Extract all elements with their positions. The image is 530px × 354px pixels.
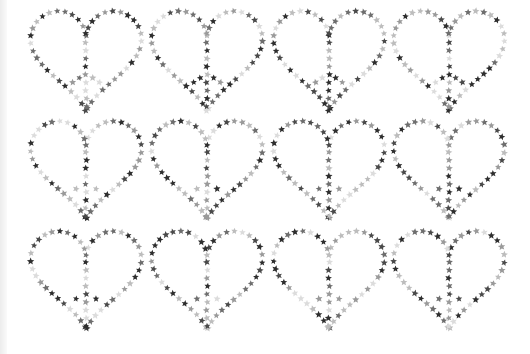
star-icon — [446, 181, 453, 188]
star-icon — [411, 228, 418, 235]
star-icon — [54, 295, 61, 302]
star-icon — [131, 237, 138, 244]
star-icon — [254, 52, 261, 58]
star-icon — [336, 295, 343, 302]
star-icon — [273, 48, 280, 54]
star-icon — [83, 291, 90, 298]
star-icon — [479, 181, 485, 187]
star-icon — [285, 121, 292, 128]
star-icon — [446, 189, 452, 195]
star-icon — [331, 98, 338, 104]
star-icon — [257, 133, 263, 139]
star-icon — [82, 47, 89, 54]
star-icon — [495, 274, 501, 280]
star-icon — [424, 8, 431, 15]
star-icon — [336, 185, 343, 192]
star-icon — [80, 23, 86, 29]
star-icon — [501, 259, 507, 266]
star-icon — [73, 311, 79, 317]
star-icon — [360, 8, 367, 15]
star-icon — [259, 141, 266, 147]
star-icon — [293, 72, 300, 79]
star-icon — [118, 119, 125, 126]
star-icon — [93, 92, 100, 98]
star-icon — [246, 12, 252, 18]
star-icon — [175, 7, 182, 14]
star-icon — [159, 169, 165, 175]
star-icon — [488, 122, 495, 128]
star-icon — [223, 118, 230, 125]
star-icon — [452, 18, 459, 25]
star-icon — [446, 71, 453, 78]
star-icon — [280, 279, 287, 285]
star-icon — [239, 71, 245, 77]
star-icon — [325, 181, 332, 188]
star-icon — [326, 149, 332, 156]
star-icon — [335, 312, 341, 319]
star-icon — [338, 232, 345, 239]
star-icon — [451, 99, 457, 105]
star-icon — [158, 279, 165, 286]
star-icon — [98, 307, 105, 314]
star-icon — [496, 52, 503, 59]
star-icon — [203, 307, 210, 314]
star-icon — [82, 282, 89, 289]
star-icon — [446, 55, 452, 61]
star-icon — [28, 148, 34, 154]
star-icon — [307, 229, 314, 236]
star-icon — [381, 30, 387, 36]
star-icon — [330, 318, 337, 325]
star-icon — [418, 185, 424, 191]
star-icon — [271, 258, 277, 264]
star-icon — [346, 191, 353, 198]
star-icon — [488, 232, 495, 239]
star-icon — [57, 228, 64, 235]
star-icon — [326, 259, 333, 266]
star-icon — [379, 157, 385, 163]
star-icon — [396, 18, 402, 25]
star-icon — [138, 251, 145, 258]
star-icon — [345, 9, 351, 16]
star-icon — [381, 259, 388, 266]
star-icon — [192, 123, 199, 130]
star-icon — [203, 79, 210, 86]
star-icon — [405, 232, 411, 238]
star-icon — [320, 317, 327, 324]
star-icon — [371, 59, 378, 66]
star-icon — [204, 55, 211, 62]
star-icon — [83, 298, 90, 305]
star-icon — [39, 13, 45, 19]
star-icon — [340, 307, 347, 314]
star-icon — [210, 74, 217, 80]
star-icon — [157, 126, 163, 132]
star-icon — [170, 118, 177, 125]
star-icon — [456, 92, 463, 99]
star-icon — [160, 13, 167, 20]
star-icon — [275, 162, 282, 169]
star-icon — [56, 77, 63, 84]
star-icon — [309, 305, 316, 312]
star-icon — [446, 307, 452, 314]
star-icon — [461, 307, 468, 314]
star-icon — [85, 134, 92, 141]
star-icon — [446, 79, 452, 85]
star-icon — [37, 279, 44, 286]
star-icon — [325, 196, 332, 203]
star-icon — [436, 94, 442, 100]
star-icon — [95, 122, 101, 128]
star-icon — [314, 123, 321, 130]
star-icon — [198, 207, 205, 214]
star-icon — [412, 119, 419, 126]
star-icon — [88, 98, 95, 105]
star-icon — [343, 86, 350, 93]
star-icon — [392, 266, 399, 272]
star-icon — [157, 236, 164, 243]
star-icon — [491, 59, 498, 66]
star-icon — [376, 52, 383, 59]
star-icon — [465, 119, 472, 126]
star-icon — [276, 54, 283, 61]
star-icon — [149, 140, 156, 146]
star-icon — [445, 87, 452, 94]
star-icon — [190, 11, 196, 17]
star-icon — [297, 295, 304, 302]
